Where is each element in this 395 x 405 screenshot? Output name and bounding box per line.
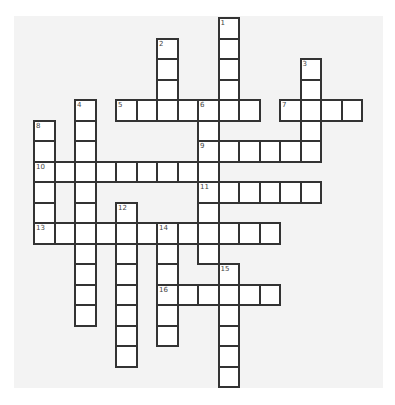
cell-letter-input[interactable] (76, 142, 95, 161)
crossword-cell[interactable] (218, 366, 241, 389)
cell-letter-input[interactable] (158, 327, 177, 346)
crossword-cell[interactable]: 5 (115, 99, 138, 122)
cell-letter-input[interactable] (76, 224, 95, 243)
crossword-cell[interactable]: 9 (197, 140, 220, 163)
cell-letter-input[interactable] (158, 101, 177, 120)
crossword-cell[interactable] (238, 99, 261, 122)
cell-letter-input[interactable] (179, 286, 198, 305)
cell-letter-input[interactable] (35, 183, 54, 202)
cell-letter-input[interactable] (322, 101, 341, 120)
crossword-cell[interactable] (156, 161, 179, 184)
crossword-cell[interactable] (177, 284, 200, 307)
cell-letter-input[interactable] (35, 142, 54, 161)
cell-letter-input[interactable] (35, 163, 54, 182)
cell-letter-input[interactable] (158, 81, 177, 100)
crossword-cell[interactable] (115, 243, 138, 266)
cell-letter-input[interactable] (158, 40, 177, 59)
crossword-cell[interactable]: 13 (33, 222, 56, 245)
cell-letter-input[interactable] (35, 224, 54, 243)
crossword-cell[interactable] (33, 140, 56, 163)
crossword-cell[interactable] (218, 325, 241, 348)
crossword-cell[interactable] (156, 99, 179, 122)
cell-letter-input[interactable] (76, 163, 95, 182)
cell-letter-input[interactable] (199, 183, 218, 202)
crossword-cell[interactable] (197, 202, 220, 225)
crossword-cell[interactable] (218, 79, 241, 102)
cell-letter-input[interactable] (97, 163, 116, 182)
crossword-cell[interactable] (74, 120, 97, 143)
cell-letter-input[interactable] (281, 142, 300, 161)
cell-letter-input[interactable] (220, 81, 239, 100)
crossword-cell[interactable] (259, 284, 282, 307)
crossword-cell[interactable] (218, 345, 241, 368)
crossword-cell[interactable] (74, 181, 97, 204)
cell-letter-input[interactable] (240, 224, 259, 243)
cell-letter-input[interactable] (76, 306, 95, 325)
crossword-cell[interactable] (54, 161, 77, 184)
cell-letter-input[interactable] (76, 265, 95, 284)
cell-letter-input[interactable] (220, 142, 239, 161)
crossword-cell[interactable]: 15 (218, 263, 241, 286)
crossword-cell[interactable] (238, 181, 261, 204)
cell-letter-input[interactable] (76, 183, 95, 202)
crossword-cell[interactable] (136, 222, 159, 245)
cell-letter-input[interactable] (56, 224, 75, 243)
crossword-cell[interactable] (218, 222, 241, 245)
crossword-cell[interactable] (238, 222, 261, 245)
cell-letter-input[interactable] (302, 101, 321, 120)
crossword-cell[interactable] (259, 222, 282, 245)
cell-letter-input[interactable] (76, 101, 95, 120)
cell-letter-input[interactable] (117, 204, 136, 223)
cell-letter-input[interactable] (220, 101, 239, 120)
crossword-cell[interactable] (74, 222, 97, 245)
cell-letter-input[interactable] (117, 327, 136, 346)
crossword-cell[interactable] (197, 284, 220, 307)
crossword-cell[interactable] (54, 222, 77, 245)
cell-letter-input[interactable] (138, 101, 157, 120)
crossword-cell[interactable] (33, 181, 56, 204)
crossword-cell[interactable]: 12 (115, 202, 138, 225)
cell-letter-input[interactable] (158, 265, 177, 284)
crossword-cell[interactable] (156, 263, 179, 286)
cell-letter-input[interactable] (35, 122, 54, 141)
crossword-cell[interactable]: 4 (74, 99, 97, 122)
crossword-cell[interactable] (279, 181, 302, 204)
crossword-cell[interactable]: 10 (33, 161, 56, 184)
cell-letter-input[interactable] (302, 122, 321, 141)
cell-letter-input[interactable] (199, 245, 218, 264)
cell-letter-input[interactable] (281, 101, 300, 120)
crossword-cell[interactable] (115, 161, 138, 184)
cell-letter-input[interactable] (240, 183, 259, 202)
crossword-cell[interactable] (238, 284, 261, 307)
cell-letter-input[interactable] (179, 224, 198, 243)
crossword-cell[interactable] (259, 181, 282, 204)
crossword-cell[interactable] (115, 284, 138, 307)
cell-letter-input[interactable] (220, 60, 239, 79)
cell-letter-input[interactable] (240, 286, 259, 305)
crossword-cell[interactable]: 16 (156, 284, 179, 307)
cell-letter-input[interactable] (199, 224, 218, 243)
cell-letter-input[interactable] (199, 101, 218, 120)
cell-letter-input[interactable] (220, 265, 239, 284)
crossword-cell[interactable] (74, 243, 97, 266)
crossword-cell[interactable] (74, 140, 97, 163)
cell-letter-input[interactable] (220, 40, 239, 59)
cell-letter-input[interactable] (35, 204, 54, 223)
crossword-cell[interactable] (115, 325, 138, 348)
cell-letter-input[interactable] (199, 142, 218, 161)
crossword-cell[interactable] (74, 263, 97, 286)
cell-letter-input[interactable] (220, 183, 239, 202)
cell-letter-input[interactable] (302, 183, 321, 202)
cell-letter-input[interactable] (343, 101, 362, 120)
crossword-cell[interactable] (320, 99, 343, 122)
crossword-cell[interactable]: 11 (197, 181, 220, 204)
crossword-cell[interactable] (218, 140, 241, 163)
crossword-cell[interactable]: 8 (33, 120, 56, 143)
cell-letter-input[interactable] (199, 204, 218, 223)
crossword-cell[interactable] (115, 222, 138, 245)
cell-letter-input[interactable] (240, 101, 259, 120)
crossword-cell[interactable] (177, 99, 200, 122)
crossword-cell[interactable] (218, 181, 241, 204)
crossword-cell[interactable] (74, 161, 97, 184)
cell-letter-input[interactable] (261, 183, 280, 202)
